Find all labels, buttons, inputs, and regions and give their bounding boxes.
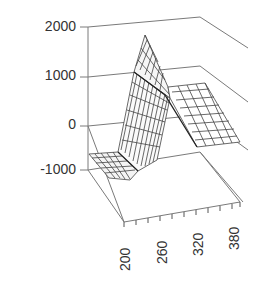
x-tick-label-320: 320 — [190, 233, 206, 256]
x-axis-ticks — [124, 202, 240, 227]
x-tick-label-200: 200 — [117, 248, 133, 271]
z-tick-label-2000: 2000 — [6, 18, 76, 34]
z-tick-label-1000: 1000 — [6, 67, 76, 83]
z-tick-label-0: 0 — [6, 116, 76, 132]
x-tick-label-380: 380 — [226, 227, 242, 250]
z-tick-label-neg1000: -1000 — [6, 161, 76, 177]
surface-wireframe — [89, 35, 240, 180]
surface-chart: 2000 1000 0 -1000 200 260 320 380 — [0, 0, 265, 287]
x-tick-label-260: 260 — [154, 241, 170, 264]
